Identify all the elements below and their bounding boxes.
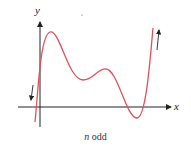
polynomial-curve	[35, 28, 153, 122]
right-end-behavior-arrow-icon	[157, 30, 159, 50]
polynomial-graph	[0, 0, 191, 147]
stray-dot	[81, 14, 82, 15]
y-axis-label: y	[35, 5, 40, 16]
caption-text: odd	[92, 131, 107, 142]
x-axis-label: x	[174, 101, 179, 112]
caption-variable: n	[84, 131, 89, 142]
left-end-behavior-arrow-icon	[31, 85, 33, 100]
caption: n odd	[0, 131, 191, 142]
